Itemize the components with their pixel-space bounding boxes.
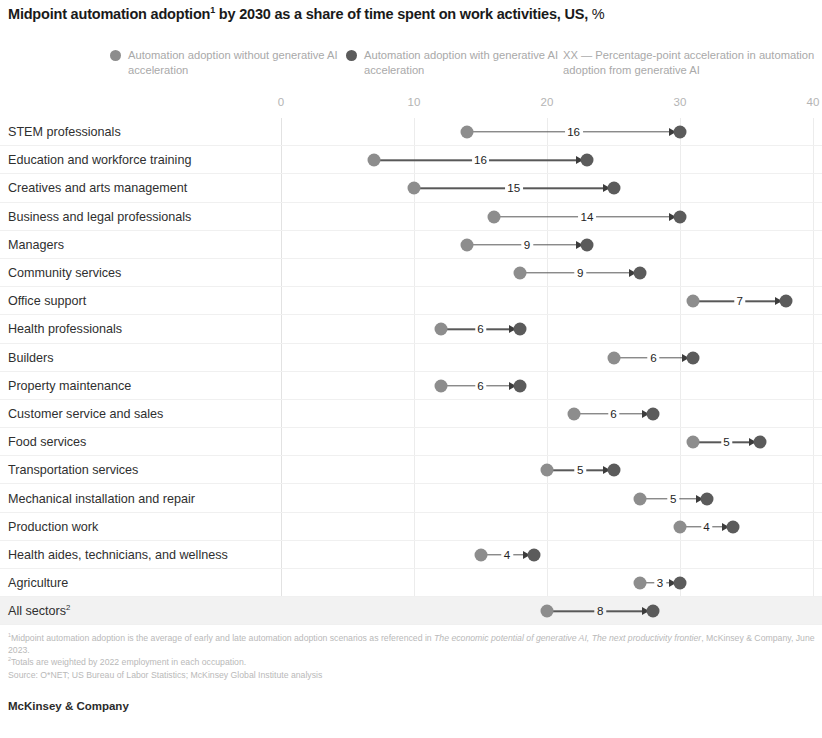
delta-value-label: 7	[734, 295, 745, 307]
delta-value-label: 9	[521, 239, 532, 251]
chart-row: Health professionals6	[0, 315, 822, 343]
chart-row: Customer service and sales6	[0, 400, 822, 428]
dot-without-genai	[687, 295, 700, 308]
x-tick-label-40: 40	[807, 96, 820, 108]
chart-plot-area: 010203040 STEM professionals16Education …	[0, 96, 822, 626]
dot-with-genai	[514, 323, 527, 336]
dot-without-genai	[634, 577, 647, 590]
dot-without-genai	[674, 520, 687, 533]
chart-row: Creatives and arts management15	[0, 174, 822, 202]
dumbbell-marker: 9	[0, 259, 822, 287]
dot-with-genai	[607, 182, 620, 195]
delta-value-label: 16	[472, 154, 490, 166]
dot-with-genai	[527, 548, 540, 561]
chart-row: All sectors28	[0, 597, 822, 625]
footnote-2-text: Totals are weighted by 2022 employment i…	[11, 657, 246, 667]
dot-without-genai	[461, 238, 474, 251]
delta-value-label: 6	[648, 352, 659, 364]
chart-row: Food services5	[0, 428, 822, 456]
chart-rows: STEM professionals16Education and workfo…	[0, 118, 822, 625]
delta-value-label: 5	[721, 436, 732, 448]
dot-with-genai	[727, 520, 740, 533]
dot-with-genai	[753, 436, 766, 449]
delta-value-label: 14	[578, 211, 596, 223]
dot-with-genai	[674, 577, 687, 590]
x-tick-label-10: 10	[408, 96, 421, 108]
dot-with-genai	[780, 295, 793, 308]
dot-with-genai	[607, 464, 620, 477]
brand-logo: McKinsey & Company	[8, 700, 129, 712]
footnote-1-text-a: Midpoint automation adoption is the aver…	[11, 633, 434, 643]
dumbbell-marker: 6	[0, 400, 822, 428]
dot-with-genai	[700, 492, 713, 505]
dot-without-genai	[541, 464, 554, 477]
dot-with-genai	[687, 351, 700, 364]
page-title-main: Midpoint automation adoption	[8, 6, 210, 22]
legend-label-delta: XX — Percentage-point acceleration in au…	[563, 49, 814, 76]
dot-with-genai	[580, 154, 593, 167]
legend-label-with: Automation adoption with generative AI a…	[364, 49, 558, 76]
chart-row: Builders6	[0, 344, 822, 372]
x-axis-tick-labels: 010203040	[0, 96, 822, 118]
footnote-1-citation: The economic potential of generative AI,…	[434, 633, 701, 643]
x-tick-label-20: 20	[541, 96, 554, 108]
dumbbell-marker: 5	[0, 456, 822, 484]
chart-row: Mechanical installation and repair5	[0, 484, 822, 512]
footnote-1: 1Midpoint automation adoption is the ave…	[8, 632, 820, 656]
footnotes: 1Midpoint automation adoption is the ave…	[8, 632, 820, 681]
dot-with-genai	[674, 126, 687, 139]
delta-value-label: 3	[654, 577, 665, 589]
dot-without-genai	[607, 351, 620, 364]
delta-value-label: 5	[575, 464, 586, 476]
delta-value-label: 6	[608, 408, 619, 420]
page-title-unit: %	[592, 6, 605, 22]
chart-row: Office support7	[0, 287, 822, 315]
chart-row: Education and workforce training16	[0, 146, 822, 174]
delta-value-label: 16	[565, 126, 583, 138]
dumbbell-marker: 9	[0, 231, 822, 259]
legend-item-without: Automation adoption without generative A…	[110, 48, 353, 78]
dot-without-genai	[408, 182, 421, 195]
dumbbell-marker: 4	[0, 541, 822, 569]
x-tick-label-30: 30	[674, 96, 687, 108]
dumbbell-marker: 8	[0, 597, 822, 625]
delta-value-label: 6	[475, 380, 486, 392]
delta-value-label: 8	[594, 605, 605, 617]
chart-row: STEM professionals16	[0, 118, 822, 146]
dumbbell-marker: 6	[0, 344, 822, 372]
dumbbell-marker: 4	[0, 513, 822, 541]
chart-row: Health aides, technicians, and wellness4	[0, 541, 822, 569]
footnote-source: Source: O*NET; US Bureau of Labor Statis…	[8, 669, 820, 681]
legend-dot-dark-icon	[346, 50, 357, 61]
dumbbell-marker: 3	[0, 569, 822, 597]
delta-value-label: 4	[501, 549, 512, 561]
dot-with-genai	[634, 267, 647, 280]
chart-row: Property maintenance6	[0, 372, 822, 400]
legend-item-delta: XX — Percentage-point acceleration in au…	[563, 48, 822, 78]
dot-without-genai	[434, 379, 447, 392]
dot-without-genai	[687, 436, 700, 449]
dot-without-genai	[634, 492, 647, 505]
page-title: Midpoint automation adoption1 by 2030 as…	[8, 6, 808, 22]
legend-label-without: Automation adoption without generative A…	[128, 49, 338, 76]
dot-without-genai	[567, 407, 580, 420]
dot-without-genai	[461, 126, 474, 139]
delta-value-label: 9	[575, 267, 586, 279]
dumbbell-marker: 5	[0, 484, 822, 512]
dumbbell-marker: 5	[0, 428, 822, 456]
legend-item-with: Automation adoption with generative AI a…	[346, 48, 564, 78]
dot-without-genai	[474, 548, 487, 561]
chart-row: Managers9	[0, 231, 822, 259]
dumbbell-marker: 6	[0, 315, 822, 343]
dumbbell-marker: 16	[0, 118, 822, 146]
x-tick-label-0: 0	[278, 96, 284, 108]
chart-row: Agriculture3	[0, 569, 822, 597]
chart-row: Transportation services5	[0, 456, 822, 484]
legend-dot-light-icon	[110, 50, 121, 61]
chart-row: Production work4	[0, 513, 822, 541]
delta-value-label: 15	[505, 182, 523, 194]
dumbbell-marker: 14	[0, 203, 822, 231]
delta-value-label: 4	[701, 521, 712, 533]
dot-with-genai	[674, 210, 687, 223]
chart-row: Business and legal professionals14	[0, 203, 822, 231]
